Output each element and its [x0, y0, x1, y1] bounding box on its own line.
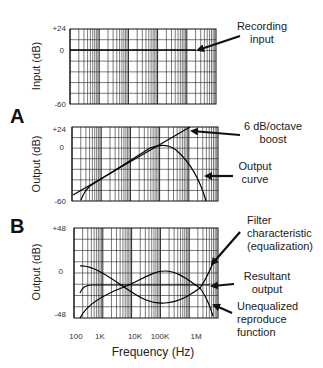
recording-input-label-1: Recording [237, 20, 287, 32]
ytick-bottom: -48 [54, 310, 66, 319]
boost-line [73, 127, 190, 195]
unequalized-label-2: reproduce [237, 313, 287, 325]
recording-input-label-2: input [250, 33, 274, 45]
ytick-bottom: -60 [54, 100, 66, 109]
filter-label-2: characteristic [247, 227, 312, 239]
boost-label-2: boost [260, 133, 287, 145]
ytick-top: +24 [52, 125, 66, 134]
filter-label-3: (equalization) [247, 240, 313, 252]
ytick-top: +24 [52, 24, 66, 33]
x-axis-label: Frequency (Hz) [112, 345, 195, 359]
output-b-panel: +48 0 -48 Output (dB) Filter characteris… [30, 214, 313, 338]
input-y-axis-label: Input (dB) [30, 42, 42, 90]
panel-a-letter: A [10, 105, 24, 127]
boost-arrow [192, 131, 240, 135]
filter-arrow [212, 232, 240, 264]
resultant-output-curve [80, 285, 210, 293]
output-b-grid [74, 228, 218, 318]
panel-b-letter: B [10, 215, 24, 237]
xtick-1m: 1M [190, 332, 201, 341]
frequency-response-figure: +24 0 -60 Input (dB) Recording input A +… [0, 0, 323, 368]
output-b-y-axis-label: Output (dB) [30, 244, 42, 301]
ytick-zero: 0 [59, 267, 64, 276]
filter-label-1: Filter [247, 214, 272, 226]
output-curve-label-2: curve [242, 173, 269, 185]
ytick-bottom: -60 [54, 197, 66, 206]
input-plot-frame [70, 29, 216, 104]
unequalized-label-1: Unequalized [237, 300, 298, 312]
ytick-zero: 0 [60, 143, 65, 152]
xtick-10k: 10K [128, 332, 143, 341]
output-a-y-axis-label: Output (dB) [30, 136, 42, 193]
input-grid [70, 29, 216, 104]
output-a-panel: +24 0 -60 Output (dB) 6 dB/octave boost … [30, 120, 302, 206]
output-curve-label-1: Output [238, 160, 271, 172]
output-a-grid [72, 127, 218, 201]
boost-label-1: 6 dB/octave [244, 120, 302, 132]
xtick-100k: 100K [151, 332, 170, 341]
output-a-plot-frame [72, 127, 218, 201]
xtick-1k: 1K [95, 332, 105, 341]
unequalized-label-3: function [237, 326, 276, 338]
ytick-top: +48 [52, 224, 66, 233]
x-axis: 100 1K 10K 100K 1M Frequency (Hz) [69, 332, 202, 359]
ytick-zero: 0 [60, 46, 65, 55]
input-panel: +24 0 -60 Input (dB) Recording input [30, 20, 287, 109]
xtick-100: 100 [69, 332, 83, 341]
resultant-label-1: Resultant [244, 270, 290, 282]
resultant-label-2: output [252, 283, 283, 295]
